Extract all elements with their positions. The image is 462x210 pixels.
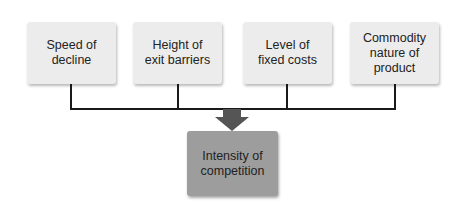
connector-line-1 xyxy=(70,84,72,109)
factor-label: Height of exit barriers xyxy=(145,38,210,68)
result-label: Intensity of competition xyxy=(201,149,265,179)
factor-box-height-of-exit-barriers: Height of exit barriers xyxy=(133,22,222,84)
connector-line-4 xyxy=(394,84,396,109)
factor-box-level-of-fixed-costs: Level of fixed costs xyxy=(243,22,332,84)
factor-box-speed-of-decline: Speed of decline xyxy=(27,22,116,84)
connector-line-2 xyxy=(177,84,179,109)
factor-box-commodity-nature-of-product: Commodity nature of product xyxy=(350,22,439,84)
connector-line-3 xyxy=(286,84,288,109)
result-box-intensity-of-competition: Intensity of competition xyxy=(187,131,278,196)
factor-label: Speed of decline xyxy=(46,38,96,68)
down-arrow-icon xyxy=(212,109,252,133)
factor-label: Level of fixed costs xyxy=(258,38,317,68)
factor-label: Commodity nature of product xyxy=(363,31,426,76)
